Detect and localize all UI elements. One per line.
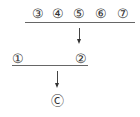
middle-row-divider-line: [12, 65, 88, 66]
node-4: ④: [50, 6, 66, 22]
down-arrow-icon: [79, 28, 80, 41]
node-3: ③: [30, 6, 46, 22]
node-7: ⑦: [115, 6, 131, 22]
node-5: ⑤: [71, 6, 87, 22]
diagram-canvas: ③ ④ ⑤ ⑥ ⑦ ① ② Ⓒ: [0, 0, 140, 117]
node-6: ⑥: [93, 6, 109, 22]
down-arrow-icon: [57, 71, 58, 85]
top-row-divider-line: [25, 22, 135, 23]
result-node-c: Ⓒ: [49, 93, 65, 109]
